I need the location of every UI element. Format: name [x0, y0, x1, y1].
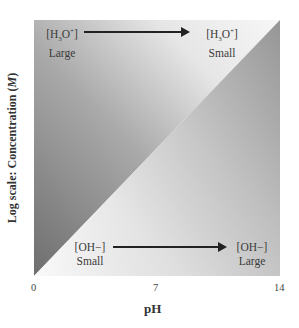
x-tick-7: 7 [153, 282, 158, 293]
oh-size-right: Large [234, 254, 270, 268]
h3o-size-left: Large [40, 46, 84, 60]
x-tick-0: 0 [31, 282, 36, 293]
h3o-arrow [84, 31, 188, 33]
h3o-species-right: [H3O+] [200, 24, 244, 46]
oh-size-left: Small [72, 254, 108, 268]
oh-large-label: [OH−] Large [234, 240, 270, 268]
oh-species-right: [OH−] [234, 240, 270, 254]
x-tick-14: 14 [274, 282, 285, 293]
oh-species-left: [OH−] [72, 240, 108, 254]
y-axis-label: Log scale: Concentration (M) [5, 73, 20, 223]
x-axis-label: pH [144, 301, 161, 317]
oh-arrow [113, 246, 225, 248]
h3o-small-label: [H3O+] Small [200, 24, 244, 60]
oh-small-label: [OH−] Small [72, 240, 108, 268]
h3o-species-left: [H3O+] [40, 24, 84, 46]
h3o-large-label: [H3O+] Large [40, 24, 84, 60]
h3o-size-right: Small [200, 46, 244, 60]
